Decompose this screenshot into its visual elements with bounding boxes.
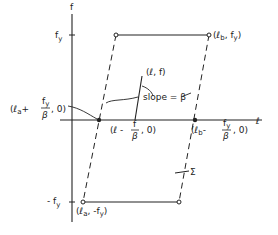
corner-top-right xyxy=(207,33,211,37)
point-l-f: (ℓ, f) xyxy=(146,67,166,77)
sigma-label: Σ xyxy=(190,167,196,177)
mid-intercept-label: (ℓ - f β , 0) xyxy=(110,119,156,141)
corner-bottom-right xyxy=(177,200,181,204)
f-axis-label: f xyxy=(70,2,74,12)
svg-text:(ℓb-: (ℓb- xyxy=(191,125,206,137)
point-lb-fy: (ℓb, fy) xyxy=(213,30,241,42)
svg-text:fy: fy xyxy=(42,96,49,108)
l-axis-label: ℓ xyxy=(255,116,260,126)
svg-text:(ℓa+: (ℓa+ xyxy=(10,104,29,116)
svg-text:, 0): , 0) xyxy=(141,125,156,135)
corner-top-left xyxy=(114,33,118,37)
neg-fy-label: - fy xyxy=(47,196,60,209)
svg-text:β: β xyxy=(131,131,138,141)
corner-bottom-left xyxy=(81,200,85,204)
sigma-tick xyxy=(175,171,189,173)
current-slope-line xyxy=(135,76,142,120)
svg-text:β: β xyxy=(222,131,229,141)
slope-leader-left xyxy=(106,97,138,103)
yield-parallelogram-diagram: f ℓ fy - fy (ℓb, fy) (ℓa, -fy) (ℓ, f) sl… xyxy=(0,0,278,235)
point-la-neg-fy: (ℓa, -fy) xyxy=(76,206,107,218)
right-intercept-point xyxy=(193,118,197,122)
svg-text:(ℓ -: (ℓ - xyxy=(110,125,123,135)
slope-label: slope = β xyxy=(143,92,186,102)
svg-text:, 0): , 0) xyxy=(51,104,66,114)
left-intercept-point xyxy=(97,118,101,122)
right-intercept-label: (ℓb- fy β , 0) xyxy=(191,118,248,141)
svg-text:, 0): , 0) xyxy=(233,125,248,135)
svg-text:β: β xyxy=(41,110,48,120)
fy-label: fy xyxy=(55,30,62,43)
left-intercept-label: (ℓa+ fy β , 0) xyxy=(10,96,66,120)
